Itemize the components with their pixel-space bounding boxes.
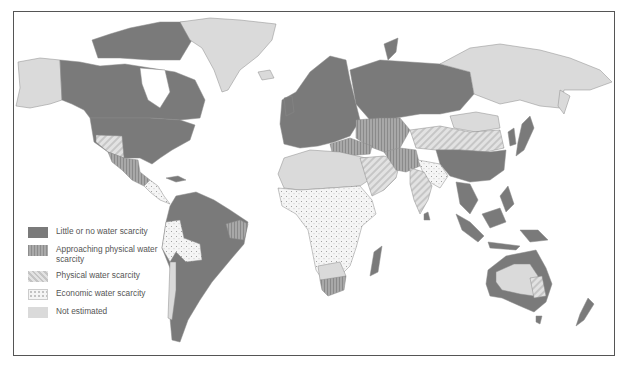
legend-item-approaching: Approaching physical water scarcity [28, 244, 188, 264]
legend-item-little: Little or no water scarcity [28, 226, 188, 238]
region-russia-west [350, 60, 474, 120]
swatch-approaching-scarcity [28, 245, 48, 256]
map-legend: Little or no water scarcity Approaching … [28, 226, 188, 324]
region-indonesia [456, 214, 484, 242]
region-canada [60, 60, 205, 120]
region-japan [516, 116, 534, 156]
legend-item-economic: Economic water scarcity [28, 288, 188, 300]
region-north-africa [278, 150, 372, 190]
legend-item-none: Not estimated [28, 306, 188, 318]
legend-item-physical: Physical water scarcity [28, 270, 188, 282]
region-new-zealand [576, 298, 594, 326]
region-alaska [16, 58, 62, 108]
swatch-not-estimated [28, 307, 48, 318]
swatch-physical-scarcity [28, 271, 48, 282]
legend-label: Physical water scarcity [56, 270, 140, 280]
legend-label: Approaching physical water scarcity [56, 244, 166, 264]
legend-label: Not estimated [56, 306, 107, 316]
swatch-economic-scarcity [28, 289, 48, 300]
region-central-america [144, 180, 170, 204]
region-southeast-asia [456, 182, 478, 214]
region-mongolia [450, 112, 500, 132]
legend-label: Economic water scarcity [56, 288, 145, 298]
region-canada-arctic [92, 22, 192, 60]
region-madagascar [370, 246, 382, 276]
legend-label: Little or no water scarcity [56, 226, 148, 236]
swatch-little-scarcity [28, 227, 48, 238]
